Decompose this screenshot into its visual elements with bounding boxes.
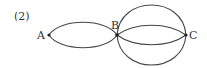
vertex-b-label: B [111,20,119,31]
edge-a-b-upper [49,22,117,35]
vertex-c-label: C [189,30,197,41]
figure-label: (2) [14,11,30,22]
vertex-a-label: A [37,30,45,41]
edge-b-c-inner-upper [117,25,186,35]
graph-figure: (2) A B C [0,0,207,68]
edge-a-b-lower [49,35,117,48]
edge-b-c-inner-lower [117,35,186,45]
vertex-c-dot [184,33,187,36]
edge-b-c-outer-upper [117,5,186,35]
vertex-b-dot [115,33,119,37]
edge-b-c-outer-lower [117,35,186,65]
vertex-a-dot [47,33,50,36]
graph-diagram [0,0,207,68]
